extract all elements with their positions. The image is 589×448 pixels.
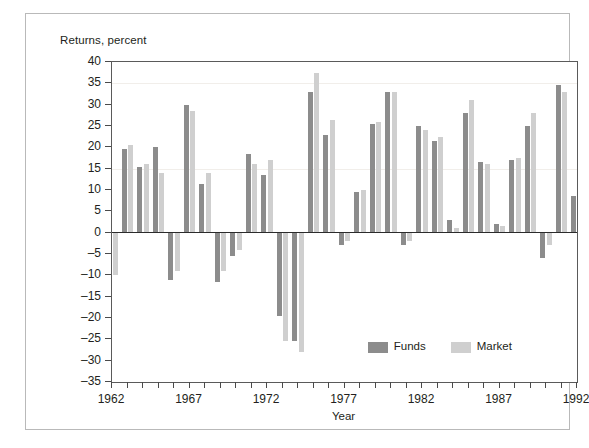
bar-market-1981 (407, 233, 412, 242)
x-tick (173, 382, 174, 388)
y-tick (105, 125, 111, 126)
y-tick-label: –30 (57, 354, 101, 366)
bar-market-1990 (547, 233, 552, 246)
x-tick (452, 382, 453, 388)
bar-funds-1969 (215, 233, 220, 282)
bar-funds-1964 (137, 167, 142, 233)
x-tick-label: 1977 (330, 392, 357, 406)
x-tick (421, 382, 422, 388)
x-tick (437, 382, 438, 388)
bar-market-1973 (283, 233, 288, 342)
faint-guide-line (112, 169, 577, 170)
x-tick (297, 382, 298, 388)
bar-funds-1989 (525, 126, 530, 233)
x-tick (282, 382, 283, 388)
legend-label-funds: Funds (394, 341, 426, 353)
bar-market-1975 (314, 73, 319, 233)
bar-funds-1974 (292, 233, 297, 342)
x-tick-label: 1982 (408, 392, 435, 406)
bar-funds-1963 (122, 149, 127, 232)
y-tick-label: 25 (57, 119, 101, 131)
x-tick (158, 382, 159, 388)
plot-area: FundsMarket (111, 61, 578, 383)
bar-market-1963 (128, 145, 133, 232)
y-tick-label: 20 (57, 140, 101, 152)
bar-funds-1977 (339, 233, 344, 246)
x-tick (344, 382, 345, 388)
y-tick-label: –25 (57, 332, 101, 344)
bar-funds-1982 (416, 126, 421, 233)
bar-funds-1990 (540, 233, 545, 259)
y-tick-label: 30 (57, 98, 101, 110)
bar-funds-1991 (556, 85, 561, 232)
x-tick (142, 382, 143, 388)
x-tick (545, 382, 546, 388)
x-tick-label: 1987 (485, 392, 512, 406)
x-tick (499, 382, 500, 388)
figure-frame: Returns, percent FundsMarket 40353025201… (25, 13, 570, 430)
x-tick (375, 382, 376, 388)
plot-inner: FundsMarket (112, 62, 577, 382)
x-tick (266, 382, 267, 388)
bar-funds-1970 (230, 233, 235, 256)
legend-entry-market: Market (451, 341, 512, 353)
y-tick-label: 5 (57, 204, 101, 216)
y-tick-label: –5 (57, 247, 101, 259)
y-tick (105, 360, 111, 361)
bar-funds-1965 (153, 147, 158, 232)
bar-market-1985 (469, 100, 474, 232)
x-tick (204, 382, 205, 388)
y-tick (105, 61, 111, 62)
x-tick (220, 382, 221, 388)
bar-funds-1980 (385, 92, 390, 233)
bar-funds-1975 (308, 92, 313, 233)
bar-funds-1984 (447, 220, 452, 233)
bar-market-1979 (376, 122, 381, 233)
legend-swatch-funds-icon (368, 342, 388, 353)
x-tick (189, 382, 190, 388)
bar-market-1971 (252, 164, 257, 232)
x-tick (514, 382, 515, 388)
bar-funds-1979 (370, 124, 375, 233)
x-tick-label: 1967 (175, 392, 202, 406)
y-tick-label: 35 (57, 76, 101, 88)
x-tick (359, 382, 360, 388)
y-tick-label: 40 (57, 55, 101, 67)
y-tick (105, 317, 111, 318)
y-tick-label: 10 (57, 183, 101, 195)
bar-market-1978 (361, 190, 366, 233)
bar-market-1968 (206, 173, 211, 233)
y-tick (105, 146, 111, 147)
bar-market-1983 (438, 137, 443, 233)
y-tick (105, 253, 111, 254)
bar-funds-1973 (277, 233, 282, 316)
bar-market-1974 (299, 233, 304, 352)
x-tick (530, 382, 531, 388)
bar-market-1980 (392, 92, 397, 233)
y-tick (105, 168, 111, 169)
y-tick (105, 104, 111, 105)
bar-funds-1986 (478, 162, 483, 232)
x-tick (328, 382, 329, 388)
bar-funds-1988 (509, 160, 514, 233)
y-tick (105, 274, 111, 275)
bar-funds-1983 (432, 141, 437, 233)
x-tick (390, 382, 391, 388)
x-tick (468, 382, 469, 388)
bar-funds-1972 (261, 175, 266, 233)
x-tick (313, 382, 314, 388)
y-tick-label: –15 (57, 290, 101, 302)
y-tick (105, 232, 111, 233)
bar-market-1988 (516, 158, 521, 233)
bar-market-1986 (485, 164, 490, 232)
x-tick (127, 382, 128, 388)
y-tick-label: –20 (57, 311, 101, 323)
x-tick (406, 382, 407, 388)
bar-funds-1978 (354, 192, 359, 233)
y-tick (105, 210, 111, 211)
y-tick (105, 338, 111, 339)
x-axis-title: Year (332, 410, 355, 422)
chart-legend: FundsMarket (368, 341, 530, 353)
bar-market-1966 (175, 233, 180, 271)
y-tick (105, 82, 111, 83)
